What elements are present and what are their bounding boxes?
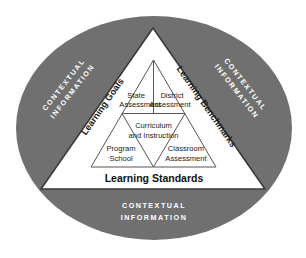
context-bottom-line1: CONTEXTUAL (122, 201, 186, 210)
state-assessment-line1: State (127, 91, 145, 100)
cell-classroom-assessment: Classroom Assessment (165, 144, 207, 163)
classroom-assessment-line1: Classroom (168, 144, 204, 153)
learning-standards-diagram: CONTEXTUAL INFORMATION CONTEXTUAL INFORM… (0, 0, 306, 258)
curriculum-line2: and Instruction (129, 131, 179, 140)
context-bottom-line2: INFORMATION (121, 213, 188, 222)
classroom-assessment-line2: Assessment (165, 154, 207, 163)
curriculum-line1: Curriculum (135, 121, 172, 130)
district-assessment-line1: District (160, 91, 184, 100)
cell-curriculum-and-instruction: Curriculum and Instruction (129, 121, 179, 140)
diagram-container: CONTEXTUAL INFORMATION CONTEXTUAL INFORM… (0, 0, 306, 258)
program-school-line2: School (109, 154, 133, 163)
learning-standards-label: Learning Standards (105, 172, 204, 184)
cell-program-school: Program School (106, 144, 135, 163)
district-assessment-line2: Assessment (149, 100, 191, 109)
program-school-line1: Program (106, 144, 135, 153)
